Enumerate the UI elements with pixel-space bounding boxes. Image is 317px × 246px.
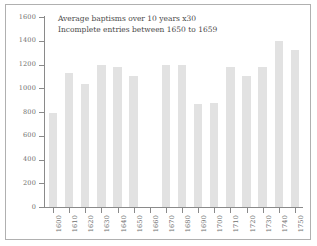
x-tick-mark	[263, 208, 264, 213]
y-tick-label: 400	[23, 156, 36, 163]
chart-screenshot: 02004006008001000120014001600 1600161016…	[0, 0, 317, 246]
y-tick-label: 800	[23, 109, 36, 116]
x-tick-mark	[85, 208, 86, 213]
bar	[178, 65, 186, 207]
x-tick-mark	[134, 208, 135, 213]
x-tick-label: 1640	[121, 215, 128, 232]
x-tick-mark	[295, 208, 296, 213]
chart-annotation: Average baptisms over 10 years x30 Incom…	[58, 14, 217, 36]
y-tick-label: 0	[32, 204, 36, 211]
x-tick-mark	[279, 208, 280, 213]
y-tick-label: 600	[23, 132, 36, 139]
annotation-line-1: Average baptisms over 10 years x30	[58, 14, 217, 25]
x-tick-label: 1740	[282, 215, 289, 232]
x-tick-label: 1720	[250, 215, 257, 232]
x-tick-mark	[230, 208, 231, 213]
y-tick-label: 1000	[19, 85, 36, 92]
bar	[162, 65, 170, 208]
x-tick-mark	[247, 208, 248, 213]
x-tick-label: 1630	[104, 215, 111, 232]
x-tick-label: 1700	[217, 215, 224, 232]
y-tick-label: 200	[23, 180, 36, 187]
bar	[226, 67, 234, 207]
x-tick-mark	[53, 208, 54, 213]
bar	[113, 67, 121, 207]
x-tick-label: 1660	[153, 215, 160, 232]
bar	[210, 103, 218, 207]
x-tick-label: 1600	[56, 215, 63, 232]
bar	[97, 65, 105, 208]
x-tick-label: 1730	[266, 215, 273, 232]
x-tick-label: 1610	[72, 215, 79, 232]
bar	[291, 50, 299, 207]
y-tick-label: 1600	[19, 14, 36, 21]
x-tick-mark	[118, 208, 119, 213]
annotation-line-2: Incomplete entries between 1650 to 1659	[58, 25, 217, 36]
x-tick-mark	[150, 208, 151, 213]
bar	[65, 73, 73, 207]
x-axis-line	[44, 207, 303, 208]
y-tick-mark	[39, 207, 45, 208]
bar	[275, 41, 283, 207]
bar	[129, 76, 137, 207]
x-tick-mark	[166, 208, 167, 213]
x-tick-label: 1690	[201, 215, 208, 232]
x-tick-label: 1670	[169, 215, 176, 232]
y-tick-label: 1200	[19, 61, 36, 68]
x-tick-label: 1620	[88, 215, 95, 232]
x-tick-mark	[198, 208, 199, 213]
x-tick-label: 1650	[137, 215, 144, 232]
x-tick-label: 1680	[185, 215, 192, 232]
x-tick-label: 1710	[233, 215, 240, 232]
bar	[49, 113, 57, 207]
x-tick-label: 1750	[298, 215, 305, 232]
bar	[194, 104, 202, 207]
bar	[258, 67, 266, 207]
x-tick-mark	[69, 208, 70, 213]
plot-area	[45, 17, 303, 207]
bar	[81, 84, 89, 208]
x-tick-mark	[101, 208, 102, 213]
x-tick-mark	[214, 208, 215, 213]
x-tick-mark	[182, 208, 183, 213]
bar	[242, 76, 250, 207]
y-tick-label: 1400	[19, 37, 36, 44]
